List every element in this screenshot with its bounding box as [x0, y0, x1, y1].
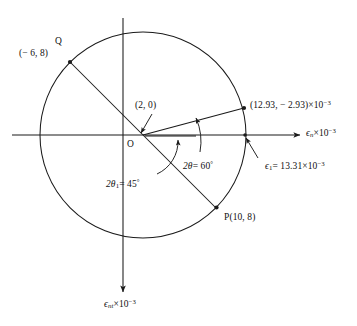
point-r-label: (12.93, − 2.93)×10−3	[250, 99, 331, 111]
point-q-coord-text: (− 6, 8)	[19, 48, 48, 58]
angle-2theta1-arc	[157, 140, 178, 174]
point-q-name-label: Q	[55, 36, 62, 47]
point-r-multiplier-text: ×10	[308, 100, 323, 110]
angle-2theta-degree: °	[210, 160, 213, 167]
vertical-axis-label: ϵnt×10−3	[104, 298, 136, 310]
horizontal-axis-label: ϵn×10−3	[306, 127, 336, 139]
vertical-axis-multiplier: ×10	[113, 299, 128, 309]
horizontal-axis-exponent: −3	[329, 127, 336, 134]
point-r-exponent-text: −3	[323, 99, 330, 106]
center-coord-text: (2, 0)	[135, 100, 156, 110]
angle-2theta1-label: 2θ1= 45°	[106, 178, 140, 190]
principal-strain-marker	[243, 133, 246, 136]
point-p-label: P(10, 8)	[224, 212, 255, 223]
principal-strain-exponent: −3	[317, 160, 324, 167]
angle-2theta-equals: = 60	[193, 161, 211, 171]
point-q-name-text: Q	[55, 36, 62, 46]
principal-strain-equals: = 13.31	[272, 161, 302, 171]
mohr-circle-figure: Q (− 6, 8) (2, 0) O (12.93, − 2.93)×10−3…	[0, 0, 357, 326]
angle-2theta1-symbol: 2θ	[106, 179, 116, 189]
principal-strain-label: ϵ1= 13.31×10−3	[265, 160, 325, 172]
point-p-marker	[214, 205, 218, 209]
horizontal-axis-multiplier: ×10	[313, 128, 328, 138]
point-q-marker	[68, 60, 72, 64]
center-coord-label: (2, 0)	[135, 100, 156, 111]
origin-label: O	[127, 139, 134, 150]
origin-text: O	[127, 139, 134, 149]
point-r-marker	[242, 106, 246, 110]
vertical-axis-exponent: −3	[129, 298, 136, 305]
radius-to-r-line	[143, 108, 244, 135]
principal-strain-leader	[246, 138, 258, 158]
angle-2theta1-degree: °	[137, 178, 140, 185]
point-q-coord-label: (− 6, 8)	[19, 48, 48, 59]
angle-2theta1-equals: = 45	[119, 179, 137, 189]
angle-2theta-symbol: 2θ	[183, 161, 193, 171]
point-r-coord-text: (12.93, − 2.93)	[250, 100, 308, 110]
point-p-text: P(10, 8)	[224, 212, 255, 222]
principal-strain-multiplier: ×10	[302, 161, 317, 171]
angle-2theta-label: 2θ= 60°	[183, 160, 213, 172]
center-label-leader	[141, 114, 152, 133]
